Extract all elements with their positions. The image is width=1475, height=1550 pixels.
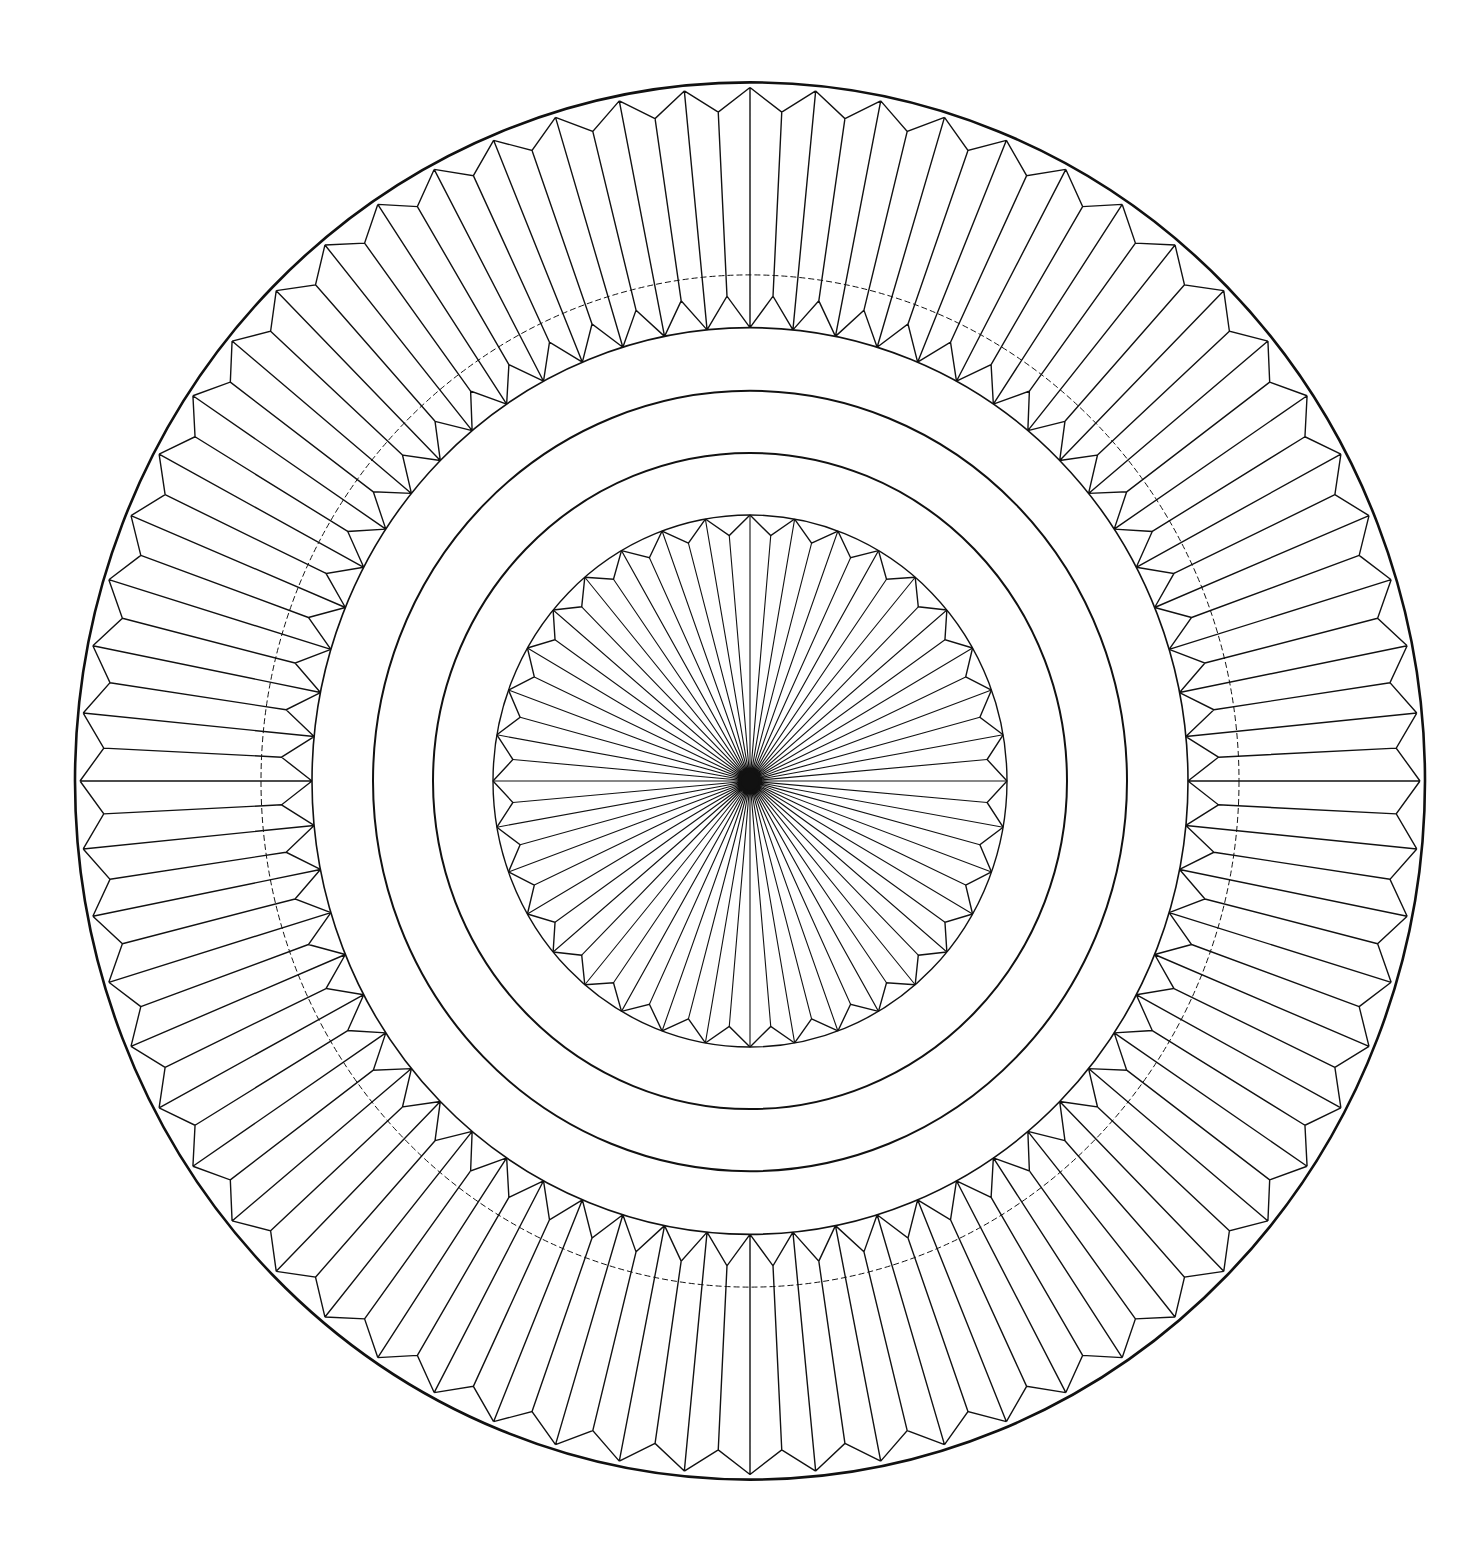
center-dot [741,772,759,791]
mandala-drawing [0,0,1475,1550]
center-starburst-medallion [493,515,1007,1047]
mandala-group [75,82,1425,1479]
mandala-canvas: Geometric mandala line drawing [0,0,1475,1550]
